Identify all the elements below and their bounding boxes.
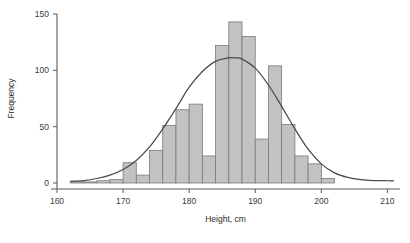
histogram-bar <box>202 156 215 183</box>
x-axis-title: Height, cm <box>205 214 246 224</box>
histogram-bar <box>150 150 163 183</box>
x-tick-label: 170 <box>116 196 130 206</box>
histogram-bar <box>242 37 255 183</box>
chart-canvas: 160170180190200210 050100150 Height, cm … <box>0 0 410 243</box>
histogram-bar <box>295 156 308 183</box>
histogram-bar <box>268 66 281 183</box>
histogram-bar <box>136 175 149 183</box>
histogram-bar <box>308 164 321 183</box>
histogram-chart: 160170180190200210 050100150 Height, cm … <box>0 0 410 243</box>
y-tick-label: 100 <box>35 65 49 75</box>
histogram-bar <box>189 104 202 183</box>
x-tick-labels-group: 160170180190200210 <box>50 196 395 206</box>
x-tick-label: 210 <box>380 196 394 206</box>
bars-group <box>70 22 334 183</box>
y-tick-label: 50 <box>40 122 50 132</box>
histogram-bar <box>70 182 83 183</box>
histogram-bar <box>163 126 176 183</box>
y-axis-title: Frequency <box>6 78 16 119</box>
histogram-bar <box>97 181 110 183</box>
histogram-bar <box>255 139 268 183</box>
histogram-bar <box>229 22 242 183</box>
histogram-bar <box>176 110 189 183</box>
x-tick-label: 190 <box>248 196 262 206</box>
histogram-bar <box>110 180 123 183</box>
histogram-bar <box>321 178 334 183</box>
y-tick-labels-group: 050100150 <box>35 9 49 188</box>
histogram-bar <box>216 46 229 183</box>
x-tick-label: 180 <box>182 196 196 206</box>
histogram-bar <box>282 124 295 183</box>
y-tick-label: 0 <box>44 178 49 188</box>
x-tick-label: 160 <box>50 196 64 206</box>
histogram-bar <box>83 182 96 183</box>
y-tick-label: 150 <box>35 9 49 19</box>
x-tick-label: 200 <box>314 196 328 206</box>
